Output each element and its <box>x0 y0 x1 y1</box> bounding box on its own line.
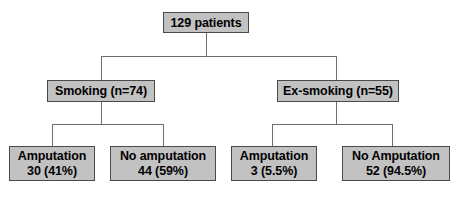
node-amputation-smoking-value: 30 (41%) <box>27 164 77 178</box>
connector-to-no-amputation-exsmoking <box>392 124 393 146</box>
node-exsmoking-label: Ex-smoking (n=55) <box>283 84 393 98</box>
connector-root-bar <box>101 56 336 57</box>
node-amputation-smoking-label: Amputation <box>18 149 86 163</box>
connector-exsmoking-bar <box>272 124 392 125</box>
node-no-amputation-exsmoking: No Amputation 52 (94.5%) <box>342 146 450 181</box>
connector-smoking-bar <box>52 124 163 125</box>
connector-exsmoking-stem <box>336 102 337 124</box>
node-amputation-exsmoking-value: 3 (5.5%) <box>251 164 297 178</box>
node-no-amputation-exsmoking-label: No Amputation <box>352 149 440 163</box>
node-root-label: 129 patients <box>170 16 241 30</box>
node-smoking: Smoking (n=74) <box>47 80 155 102</box>
connector-to-exsmoking <box>336 56 337 80</box>
flowchart-diagram: 129 patients Smoking (n=74) Ex-smoking (… <box>0 0 457 197</box>
node-smoking-label: Smoking (n=74) <box>55 84 147 98</box>
node-root: 129 patients <box>163 12 249 33</box>
connector-to-smoking <box>101 56 102 80</box>
node-no-amputation-exsmoking-value: 52 (94.5%) <box>366 164 426 178</box>
connector-to-no-amputation-smoking <box>163 124 164 146</box>
node-no-amputation-smoking-label: No amputation <box>120 149 206 163</box>
node-amputation-exsmoking: Amputation 3 (5.5%) <box>231 146 317 181</box>
node-no-amputation-smoking: No amputation 44 (59%) <box>110 146 216 181</box>
node-exsmoking: Ex-smoking (n=55) <box>277 80 399 102</box>
node-amputation-smoking: Amputation 30 (41%) <box>9 146 95 181</box>
node-amputation-exsmoking-label: Amputation <box>240 149 308 163</box>
connector-to-amputation-exsmoking <box>272 124 273 146</box>
connector-to-amputation-smoking <box>52 124 53 146</box>
node-no-amputation-smoking-value: 44 (59%) <box>138 164 188 178</box>
connector-smoking-stem <box>101 102 102 124</box>
connector-root-stem <box>206 33 207 56</box>
